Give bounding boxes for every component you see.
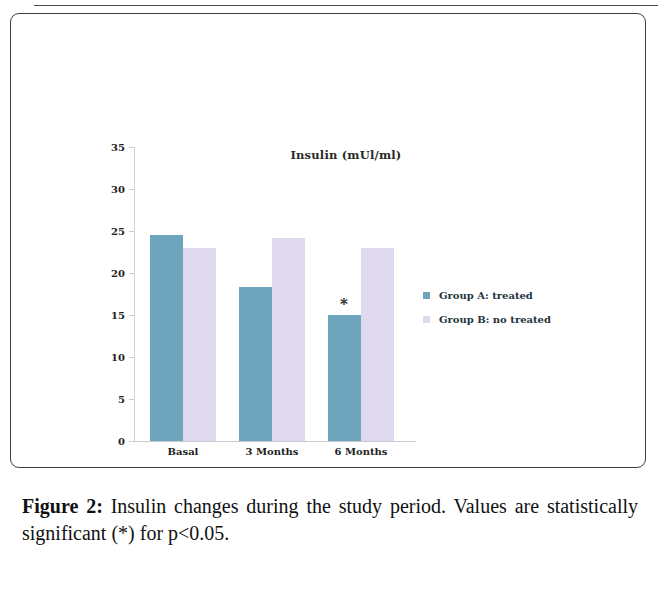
legend-swatch-group-b bbox=[423, 316, 430, 323]
significance-asterisk: * bbox=[340, 297, 348, 312]
y-axis-tick bbox=[129, 441, 134, 442]
bar-group-a-6-months bbox=[328, 315, 361, 441]
y-axis-line bbox=[134, 147, 135, 442]
y-axis-tick bbox=[129, 357, 134, 358]
chart-legend: Group A: treated Group B: no treated bbox=[423, 289, 551, 337]
legend-label-group-b: Group B: no treated bbox=[439, 314, 551, 325]
legend-item-group-b: Group B: no treated bbox=[423, 313, 551, 325]
bar-group-a-basal bbox=[150, 235, 183, 441]
figure-caption: Figure 2: Insulin changes during the stu… bbox=[22, 493, 638, 547]
y-axis-tick bbox=[129, 189, 134, 190]
legend-label-group-a: Group A: treated bbox=[439, 290, 533, 301]
y-axis-tick-label: 35 bbox=[111, 142, 125, 153]
page-top-rule bbox=[34, 5, 658, 6]
y-axis-tick-label: 0 bbox=[118, 436, 125, 447]
y-axis-tick bbox=[129, 147, 134, 148]
plot-area: 0 5 10 15 20 25 30 35 * Basal bbox=[134, 147, 416, 442]
y-axis-tick-label: 25 bbox=[111, 226, 125, 237]
y-axis-tick bbox=[129, 315, 134, 316]
legend-swatch-group-a bbox=[423, 292, 430, 299]
bar-group-b-basal bbox=[183, 248, 216, 441]
y-axis-tick-label: 15 bbox=[111, 310, 125, 321]
y-axis-tick-label: 20 bbox=[111, 268, 125, 279]
figure-caption-label: Figure 2: bbox=[22, 495, 103, 517]
bar-chart: Insulin (mUl/ml) 0 5 10 15 20 25 30 35 bbox=[11, 14, 647, 469]
x-axis-line bbox=[134, 441, 416, 442]
y-axis-tick bbox=[129, 399, 134, 400]
bar-group-a-3-months bbox=[239, 287, 272, 441]
x-axis-label-3-months: 3 Months bbox=[246, 446, 299, 457]
y-axis-tick-label: 5 bbox=[118, 394, 125, 405]
x-axis-label-basal: Basal bbox=[168, 446, 199, 457]
bar-group-b-6-months bbox=[361, 248, 394, 441]
legend-item-group-a: Group A: treated bbox=[423, 289, 551, 301]
x-axis-label-6-months: 6 Months bbox=[335, 446, 388, 457]
y-axis-tick bbox=[129, 273, 134, 274]
y-axis-tick-label: 10 bbox=[111, 352, 125, 363]
figure-frame: Insulin (mUl/ml) 0 5 10 15 20 25 30 35 bbox=[10, 13, 646, 468]
y-axis-tick-label: 30 bbox=[111, 184, 125, 195]
y-axis-tick bbox=[129, 231, 134, 232]
bar-group-b-3-months bbox=[272, 238, 305, 441]
figure-caption-text: Insulin changes during the study period.… bbox=[22, 495, 638, 544]
